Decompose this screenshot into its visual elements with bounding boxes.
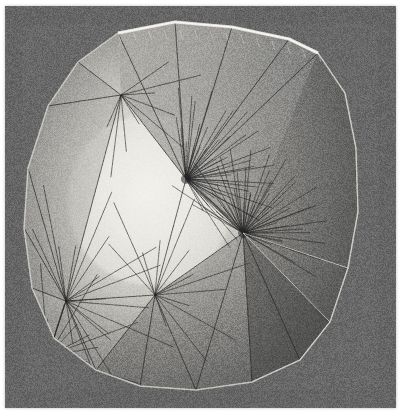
surface-mesh-render	[0, 0, 406, 419]
render-canvas-wrap	[0, 0, 406, 419]
render-stage	[0, 0, 406, 419]
